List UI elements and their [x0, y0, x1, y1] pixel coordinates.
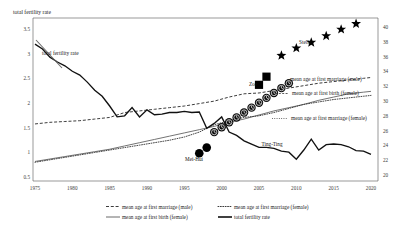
y-tick-right-7: 26	[383, 128, 389, 134]
y-tick-right-10: 20	[383, 172, 389, 178]
y-tick-right-9: 22	[383, 157, 389, 163]
x-tick-9: 2020	[366, 185, 377, 191]
y-tick-right-3: 34	[383, 68, 389, 74]
legend-label-marriage-male: mean age at first marriage (male)	[122, 204, 193, 211]
y-tick-left-2: 2.5	[24, 75, 31, 81]
y-tick-right-0: 40	[383, 24, 389, 30]
annotation-marriage-female: mean age at first marriage (female)	[291, 115, 367, 122]
x-tick-6: 2005	[254, 185, 265, 191]
y-tick-right-6: 28	[383, 113, 389, 119]
x-tick-4: 1995	[179, 185, 190, 191]
y-tick-left-6: 0.5	[24, 174, 31, 180]
annotation-birth-female: mean age at first birth (female)	[292, 90, 359, 97]
legend-label-total-fertility-rate: total fertility rate	[234, 214, 271, 220]
y-tick-right-8: 24	[383, 142, 389, 148]
legend-label-marriage-female: mean age at first marriage (female)	[234, 204, 309, 211]
x-tick-7: 2010	[291, 185, 302, 191]
x-tick-0: 1975	[30, 185, 41, 191]
y-tick-right-2: 36	[383, 54, 389, 60]
y-tick-right-5: 30	[383, 98, 389, 104]
y-axis-left-title: total fertility rate	[13, 9, 51, 15]
y-tick-left-5: 1	[27, 149, 30, 155]
y-tick-left-4: 1.5	[24, 125, 31, 131]
y-tick-right-4: 32	[383, 83, 389, 89]
x-tick-5: 2000	[217, 185, 228, 191]
x-tick-2: 1985	[105, 185, 116, 191]
square-marker	[262, 73, 270, 81]
x-tick-8: 2015	[329, 185, 340, 191]
y-tick-left-0: 3.5	[24, 26, 31, 32]
label-ting-ting: Ting-Ting	[262, 141, 283, 147]
annotation-marriage-male: mean age at first marriage (male)	[290, 76, 362, 83]
annotation-total-fertility-rate: total fertility rate	[42, 50, 79, 56]
label-zoe: Zoe	[249, 81, 258, 87]
x-tick-3: 1990	[142, 185, 153, 191]
chart-svg: total fertility rate 3.5 3 2.5 2 1.5 1 0…	[0, 0, 406, 247]
x-tick-1: 1980	[67, 185, 78, 191]
y-tick-left-3: 2	[27, 100, 30, 106]
legend-label-birth-female: mean age at first birth (female)	[122, 214, 188, 221]
y-tick-left-1: 3	[27, 51, 30, 57]
y-tick-right-1: 38	[383, 39, 389, 45]
label-mei-hui: Mei-Hui	[185, 156, 203, 162]
label-stella: Stella	[299, 39, 312, 45]
disc-marker	[202, 143, 211, 152]
chart-figure: total fertility rate 3.5 3 2.5 2 1.5 1 0…	[0, 0, 406, 247]
figure-background	[0, 0, 406, 247]
